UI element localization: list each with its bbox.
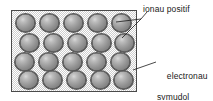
metal-lattice-box xyxy=(11,10,137,92)
diagram-canvas: ionau positif electronau symudol xyxy=(0,0,213,100)
ion-row-1 xyxy=(12,13,136,33)
positive-ion xyxy=(19,33,40,53)
positive-ion xyxy=(38,52,59,72)
positive-ion xyxy=(14,52,35,72)
positive-ion xyxy=(114,33,135,53)
ion-row-3 xyxy=(12,52,136,72)
positive-ion xyxy=(110,52,131,72)
label-mobile-electrons-line1: electronau xyxy=(167,71,208,81)
positive-ion xyxy=(66,70,87,90)
positive-ion xyxy=(63,13,84,33)
positive-ion xyxy=(90,70,111,90)
label-positive-ions: ionau positif xyxy=(143,4,190,15)
positive-ion xyxy=(42,70,63,90)
positive-ion xyxy=(87,13,108,33)
positive-ion xyxy=(86,52,107,72)
positive-ion xyxy=(39,13,60,33)
label-mobile-electrons-line2: symudol xyxy=(157,92,208,101)
ion-row-2 xyxy=(12,33,136,53)
positive-ion xyxy=(113,70,134,90)
label-mobile-electrons: electronau symudol xyxy=(157,60,208,100)
positive-ion xyxy=(111,13,132,33)
ion-row-4 xyxy=(12,70,136,90)
positive-ion xyxy=(62,52,83,72)
positive-ion xyxy=(18,70,39,90)
positive-ion xyxy=(43,33,64,53)
positive-ion xyxy=(15,13,36,33)
positive-ion xyxy=(67,33,88,53)
positive-ion xyxy=(91,33,112,53)
